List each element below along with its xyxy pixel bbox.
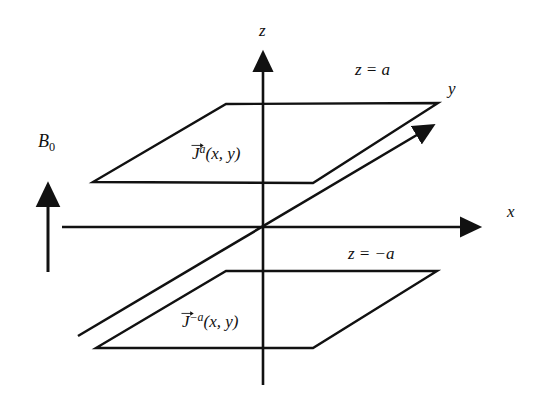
upper-sheet-outline [93, 103, 438, 183]
diagram-canvas [0, 0, 548, 402]
b0-field-label: B0 [38, 132, 55, 153]
physics-figure: z x y z = a z = −a J a(x, y) J −a(x, y) … [0, 0, 548, 402]
vector-j-lower: J [182, 313, 190, 330]
current-args-lower: (x, y) [204, 312, 239, 331]
b0-subscript: 0 [49, 140, 55, 154]
z-axis-label: z [259, 22, 266, 39]
x-axis-label: x [507, 203, 515, 220]
current-superscript-lower: −a [190, 310, 204, 324]
y-axis-line [78, 126, 432, 336]
vector-j-upper: J [192, 145, 200, 162]
lower-plane-label: z = −a [348, 245, 395, 262]
upper-current-density-label: J a(x, y) [192, 144, 240, 162]
current-symbol-lower: J [182, 312, 190, 331]
lower-current-density-label: J −a(x, y) [182, 312, 238, 330]
current-args-upper: (x, y) [206, 144, 241, 163]
b0-symbol: B [38, 131, 49, 151]
y-axis-label: y [448, 80, 456, 97]
upper-plane-label: z = a [355, 61, 390, 78]
current-symbol-upper: J [192, 144, 200, 163]
lower-sheet-outline [96, 271, 437, 348]
